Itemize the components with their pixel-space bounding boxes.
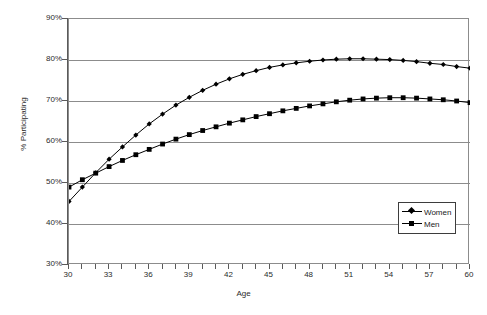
data-point-men xyxy=(267,111,272,116)
chart-container: % Participating 90%80%70%60%50%40%30% 30… xyxy=(0,0,487,315)
legend-square-marker-icon xyxy=(402,219,422,229)
data-point-women xyxy=(401,58,406,63)
x-tick-mark xyxy=(322,264,323,269)
x-tick-label: 60 xyxy=(454,271,484,279)
data-point-women xyxy=(334,57,339,62)
x-tick-mark xyxy=(255,264,256,269)
x-tick-mark xyxy=(95,264,96,269)
series-layer xyxy=(69,56,470,204)
data-point-men xyxy=(280,108,285,113)
x-tick-mark xyxy=(135,264,136,269)
x-tick-mark xyxy=(402,264,403,269)
data-point-men xyxy=(387,95,392,100)
data-point-men xyxy=(120,158,125,163)
x-tick-label: 33 xyxy=(93,271,123,279)
x-tick-mark xyxy=(121,264,122,269)
legend-label-men: Men xyxy=(422,220,440,229)
x-tick-label: 39 xyxy=(173,271,203,279)
legend-item-men: Men xyxy=(399,218,455,230)
x-tick-mark xyxy=(175,264,176,269)
data-point-women xyxy=(307,59,312,64)
data-point-women xyxy=(441,62,446,67)
data-point-men xyxy=(227,121,232,126)
y-axis-title: % Participating xyxy=(20,54,28,194)
y-tick-label: 50% xyxy=(22,178,62,186)
x-tick-mark xyxy=(335,264,336,269)
data-point-men xyxy=(441,97,446,102)
series-line-women xyxy=(69,59,470,202)
data-point-women xyxy=(254,68,259,73)
x-tick-label: 54 xyxy=(374,271,404,279)
x-tick-label: 48 xyxy=(294,271,324,279)
data-point-women xyxy=(454,64,459,69)
y-tick-label: 30% xyxy=(22,260,62,268)
data-point-women xyxy=(387,57,392,62)
x-tick-mark xyxy=(228,264,229,269)
data-point-men xyxy=(374,96,379,101)
data-point-women xyxy=(267,65,272,70)
data-point-men xyxy=(174,137,179,142)
y-tick-label: 70% xyxy=(22,96,62,104)
data-point-men xyxy=(401,95,406,100)
data-point-women xyxy=(374,57,379,62)
x-tick-mark xyxy=(389,264,390,269)
x-tick-label: 42 xyxy=(213,271,243,279)
data-point-men xyxy=(294,106,299,111)
data-point-men xyxy=(361,97,366,102)
data-point-men xyxy=(160,142,165,147)
x-tick-mark xyxy=(242,264,243,269)
data-point-men xyxy=(133,152,138,157)
x-tick-label: 51 xyxy=(334,271,364,279)
chart-legend: Women Men xyxy=(398,202,456,234)
y-tick-label: 80% xyxy=(22,55,62,63)
legend-label-women: Women xyxy=(422,208,451,217)
x-tick-mark xyxy=(282,264,283,269)
data-point-men xyxy=(468,100,470,105)
data-point-women xyxy=(280,62,285,67)
x-tick-mark xyxy=(416,264,417,269)
x-tick-mark xyxy=(162,264,163,269)
x-tick-mark xyxy=(81,264,82,269)
data-point-men xyxy=(200,128,205,133)
data-point-men xyxy=(254,114,259,119)
y-tick-label: 90% xyxy=(22,14,62,22)
legend-diamond-marker-icon xyxy=(402,207,422,217)
data-point-men xyxy=(428,97,433,102)
x-tick-mark xyxy=(349,264,350,269)
data-point-women xyxy=(347,56,352,61)
x-tick-mark xyxy=(309,264,310,269)
x-tick-mark xyxy=(269,264,270,269)
data-point-women xyxy=(320,57,325,62)
data-point-men xyxy=(107,164,112,169)
data-point-men xyxy=(147,147,152,152)
x-tick-mark xyxy=(456,264,457,269)
x-tick-mark xyxy=(362,264,363,269)
x-tick-label: 45 xyxy=(254,271,284,279)
data-point-men xyxy=(187,132,192,137)
x-tick-label: 36 xyxy=(133,271,163,279)
data-point-women xyxy=(467,66,470,71)
x-tick-mark xyxy=(469,264,470,269)
x-tick-mark xyxy=(202,264,203,269)
x-tick-mark xyxy=(375,264,376,269)
data-point-men xyxy=(454,99,459,104)
data-point-men xyxy=(93,171,98,176)
y-tick-label: 60% xyxy=(22,137,62,145)
x-tick-mark xyxy=(188,264,189,269)
x-tick-mark xyxy=(108,264,109,269)
x-tick-mark xyxy=(442,264,443,269)
data-point-men xyxy=(307,104,312,109)
data-point-men xyxy=(334,99,339,104)
data-point-men xyxy=(240,117,245,122)
x-tick-label: 57 xyxy=(414,271,444,279)
gridlines xyxy=(69,60,470,224)
y-tick-label: 40% xyxy=(22,219,62,227)
data-point-men xyxy=(321,101,326,106)
data-point-women xyxy=(227,76,232,81)
data-point-women xyxy=(240,72,245,77)
data-point-women xyxy=(213,82,218,87)
data-point-women xyxy=(200,88,205,93)
x-tick-mark xyxy=(148,264,149,269)
x-tick-mark xyxy=(68,264,69,269)
x-axis-title: Age xyxy=(0,290,487,298)
